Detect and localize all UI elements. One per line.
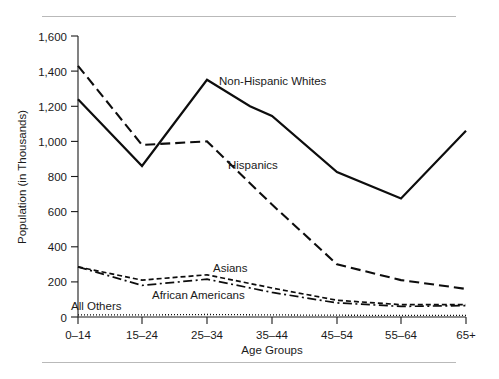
y-tick-label-200: 200 xyxy=(48,276,67,288)
y-tick-label-600: 600 xyxy=(48,206,67,218)
series-label-all-others: All Others xyxy=(71,300,122,312)
series-label-asians: Asians xyxy=(213,262,248,274)
x-tick-label-0: 0–14 xyxy=(65,329,91,341)
y-tick-label-1400: 1,400 xyxy=(38,66,67,78)
x-axis-ticks xyxy=(78,317,466,324)
y-tick-label-0: 0 xyxy=(61,312,67,324)
y-tick-label-1000: 1,000 xyxy=(38,136,67,148)
x-axis-title: Age Groups xyxy=(241,344,303,356)
x-tick-label-2: 25–34 xyxy=(191,329,224,341)
series-line-hispanics xyxy=(78,66,466,289)
series-label-african-americans: African Americans xyxy=(152,289,245,301)
x-tick-label-4: 45–54 xyxy=(321,329,354,341)
series-line-asians xyxy=(78,267,466,305)
series-label-non-hispanic-whites: Non-Hispanic Whites xyxy=(219,75,327,87)
x-tick-label-3: 35–44 xyxy=(256,329,289,341)
y-axis-ticks xyxy=(71,36,78,317)
y-tick-label-400: 400 xyxy=(48,241,67,253)
x-tick-label-1: 15–24 xyxy=(126,329,159,341)
chart-figure: 0 200 400 600 800 1,000 1,200 1,400 1,60… xyxy=(0,0,499,379)
y-axis-title: Population (in Thousands) xyxy=(16,110,28,244)
x-tick-label-5: 55–64 xyxy=(385,329,418,341)
series-line-all-others xyxy=(78,315,466,316)
series-label-hispanics: Hispanics xyxy=(228,159,278,171)
top-rule xyxy=(42,16,456,17)
y-tick-label-1200: 1,200 xyxy=(38,101,67,113)
x-tick-label-6: 65+ xyxy=(456,329,476,341)
series-line-african-americans xyxy=(78,267,466,307)
line-chart: 0 200 400 600 800 1,000 1,200 1,400 1,60… xyxy=(0,0,499,379)
y-tick-label-800: 800 xyxy=(48,171,67,183)
bottom-rule xyxy=(42,362,456,363)
y-tick-label-1600: 1,600 xyxy=(38,31,67,43)
